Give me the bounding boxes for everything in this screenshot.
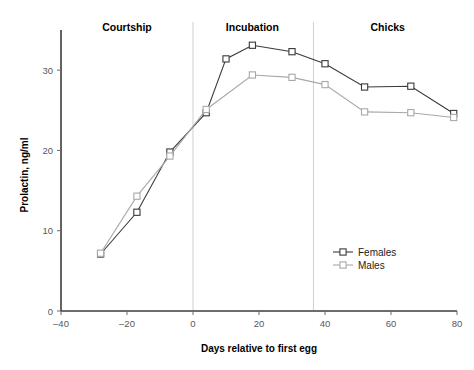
data-point-females-9: [408, 83, 414, 89]
data-point-females-5: [249, 42, 255, 48]
chart-background: [0, 0, 474, 370]
x-axis-title: Days relative to first egg: [201, 343, 317, 354]
legend-marker-males: [340, 262, 346, 268]
legend-label-females: Females: [358, 247, 396, 258]
data-point-males-4: [249, 72, 255, 78]
legend-marker-females: [340, 249, 346, 255]
data-point-males-0: [98, 250, 104, 256]
x-tick-label-60: 60: [386, 318, 397, 329]
prolactin-line-chart: CourtshipIncubationChicks 0102030 –40–20…: [0, 0, 474, 370]
data-point-males-7: [362, 109, 368, 115]
data-point-females-1: [134, 209, 140, 215]
legend-label-males: Males: [358, 260, 385, 271]
x-tick-label--20: –20: [119, 318, 135, 329]
y-tick-label-10: 10: [42, 225, 53, 236]
data-point-males-5: [289, 74, 295, 80]
x-tick-label-0: 0: [190, 318, 195, 329]
y-tick-label-0: 0: [48, 306, 53, 317]
data-point-females-7: [322, 61, 328, 67]
phase-label-incubation: Incubation: [226, 21, 279, 33]
y-tick-label-30: 30: [42, 65, 53, 76]
phase-label-chicks: Chicks: [370, 21, 405, 33]
data-point-females-8: [362, 84, 368, 90]
data-point-males-1: [134, 193, 140, 199]
y-axis-title: Prolactin, ng/ml: [19, 137, 30, 212]
x-tick-label-80: 80: [452, 318, 463, 329]
data-point-males-3: [203, 106, 209, 112]
data-point-males-9: [451, 114, 457, 120]
data-point-females-4: [223, 56, 229, 62]
data-point-females-6: [289, 49, 295, 55]
y-tick-label-20: 20: [42, 145, 53, 156]
x-tick-label--40: –40: [53, 318, 69, 329]
data-point-males-6: [322, 81, 328, 87]
data-point-males-8: [408, 110, 414, 116]
figure-container: CourtshipIncubationChicks 0102030 –40–20…: [0, 0, 474, 370]
phase-label-courtship: Courtship: [102, 21, 152, 33]
data-point-males-2: [167, 153, 173, 159]
x-tick-label-20: 20: [254, 318, 265, 329]
x-tick-label-40: 40: [320, 318, 331, 329]
cropped-caption-fragment: [40, 0, 440, 1]
